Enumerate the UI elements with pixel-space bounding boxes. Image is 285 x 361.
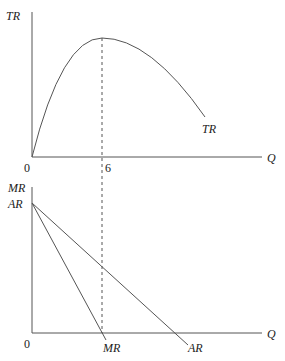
tr-origin-label: 0 <box>24 161 30 175</box>
tr-panel: TR TR Q 0 6 <box>6 9 276 175</box>
tr-tick-6: 6 <box>105 161 111 175</box>
tr-q-label: Q <box>267 151 276 165</box>
ar-line-label: AR <box>187 341 203 355</box>
mr-origin-label: 0 <box>24 337 30 351</box>
mr-line <box>32 203 106 340</box>
mr-axis-label: MR <box>7 181 26 195</box>
ar-line <box>32 203 188 345</box>
revenue-diagram: TR TR Q 0 6 MR AR MR AR Q 0 <box>0 0 285 361</box>
mr-line-label: MR <box>102 341 121 355</box>
ar-intercept-label: AR <box>7 197 23 211</box>
mr-q-label: Q <box>267 327 276 341</box>
tr-axis-label: TR <box>6 9 21 23</box>
tr-curve-label: TR <box>202 122 217 136</box>
mr-ar-panel: MR AR MR AR Q 0 <box>7 181 276 355</box>
tr-curve <box>32 38 205 157</box>
